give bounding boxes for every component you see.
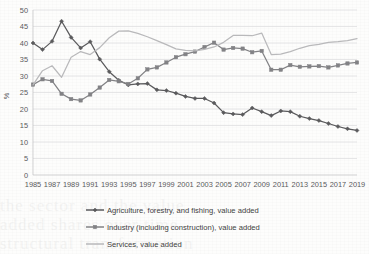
x-tick-label: 1991 <box>82 180 98 189</box>
data-point-marker <box>203 96 207 100</box>
legend-label: Agriculture, forestry, and fishing, valu… <box>107 206 259 215</box>
data-point-marker <box>98 86 101 89</box>
data-point-marker <box>117 80 120 83</box>
x-tick-label: 2013 <box>292 180 308 189</box>
data-point-marker <box>345 127 349 131</box>
x-tick-label: 1997 <box>139 180 155 189</box>
data-point-marker <box>193 96 197 100</box>
y-axis-ticks: 05101520253035404550 <box>20 6 28 180</box>
x-tick-label: 2015 <box>311 180 327 189</box>
x-tick-label: 1993 <box>101 180 117 189</box>
data-point-marker <box>41 78 44 81</box>
data-point-marker <box>317 64 320 67</box>
x-tick-label: 1999 <box>158 180 174 189</box>
y-tick-label: 30 <box>20 72 28 81</box>
gridlines <box>33 10 357 175</box>
data-point-marker <box>298 114 302 118</box>
chart-legend: Agriculture, forestry, and fishing, valu… <box>86 206 260 249</box>
line-chart: 05101520253035404550 1985198719891991199… <box>0 0 369 254</box>
chart-page: the sector and the value added shares ov… <box>0 0 369 254</box>
legend-item[interactable]: Agriculture, forestry, and fishing, valu… <box>86 206 259 215</box>
data-point-marker <box>69 97 72 100</box>
y-tick-label: 5 <box>24 154 28 163</box>
data-point-marker <box>336 64 339 67</box>
y-tick-label: 45 <box>20 22 28 31</box>
data-point-marker <box>174 91 178 95</box>
data-point-marker <box>183 94 187 98</box>
x-tick-label: 1995 <box>120 180 136 189</box>
data-point-marker <box>165 61 168 64</box>
legend-label: Industry (including construction), value… <box>107 223 260 232</box>
data-point-marker <box>355 128 359 132</box>
data-point-marker <box>136 77 139 80</box>
x-tick-label: 2001 <box>177 180 193 189</box>
legend-item[interactable]: Services, value added <box>86 240 182 249</box>
y-axis-label: % <box>2 92 11 99</box>
data-point-marker <box>250 51 253 54</box>
data-point-marker <box>174 55 177 58</box>
data-point-marker <box>307 117 311 121</box>
data-point-marker <box>231 46 234 49</box>
data-point-marker <box>146 68 149 71</box>
legend-item[interactable]: Industry (including construction), value… <box>86 223 260 232</box>
legend-label: Services, value added <box>107 240 182 249</box>
x-tick-label: 1985 <box>25 180 41 189</box>
data-point-marker <box>93 208 97 212</box>
x-tick-label: 2007 <box>234 180 250 189</box>
data-point-marker <box>79 99 82 102</box>
data-point-marker <box>93 225 96 228</box>
data-point-marker <box>269 114 273 118</box>
data-point-marker <box>279 68 282 71</box>
data-point-marker <box>355 61 358 64</box>
data-point-marker <box>108 78 111 81</box>
series-line <box>33 31 357 85</box>
data-point-marker <box>279 109 283 113</box>
x-tick-label: 2003 <box>196 180 212 189</box>
y-tick-label: 50 <box>20 6 28 15</box>
y-tick-label: 10 <box>20 138 28 147</box>
data-point-marker <box>260 49 263 52</box>
data-point-marker <box>260 110 264 114</box>
data-point-marker <box>127 82 130 85</box>
data-point-marker <box>88 93 91 96</box>
series-2 <box>31 41 358 102</box>
data-point-marker <box>60 92 63 95</box>
data-point-marker <box>326 122 330 126</box>
data-point-marker <box>288 110 292 114</box>
data-point-marker <box>212 41 215 44</box>
x-tick-label: 1987 <box>44 180 60 189</box>
y-tick-label: 15 <box>20 121 28 130</box>
x-tick-label: 2019 <box>349 180 365 189</box>
data-point-marker <box>241 47 244 50</box>
data-point-marker <box>317 119 321 123</box>
x-tick-label: 2011 <box>273 180 289 189</box>
data-point-marker <box>336 124 340 128</box>
data-point-marker <box>164 89 168 93</box>
data-point-marker <box>270 68 273 71</box>
data-point-marker <box>346 62 349 65</box>
y-tick-label: 20 <box>20 105 28 114</box>
x-tick-label: 2017 <box>330 180 346 189</box>
data-point-marker <box>231 112 235 116</box>
y-tick-label: 35 <box>20 55 28 64</box>
data-point-marker <box>136 82 140 86</box>
data-point-marker <box>155 66 158 69</box>
x-tick-label: 1989 <box>63 180 79 189</box>
data-point-marker <box>222 48 225 51</box>
x-tick-label: 2005 <box>215 180 231 189</box>
data-point-marker <box>203 45 206 48</box>
x-axis-ticks: 1985198719891991199319951997199920012003… <box>25 180 365 189</box>
data-point-marker <box>298 65 301 68</box>
data-point-marker <box>308 65 311 68</box>
y-tick-label: 25 <box>20 88 28 97</box>
data-point-marker <box>184 53 187 56</box>
data-point-marker <box>327 66 330 69</box>
series-3 <box>33 31 357 85</box>
y-tick-label: 0 <box>24 171 28 180</box>
y-tick-label: 40 <box>20 39 28 48</box>
data-point-marker <box>289 63 292 66</box>
data-point-marker <box>50 79 53 82</box>
x-tick-label: 2009 <box>253 180 269 189</box>
